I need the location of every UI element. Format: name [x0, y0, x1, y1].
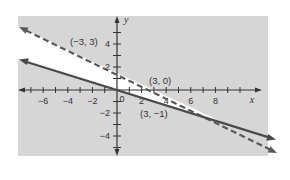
y-tick-label: 4 [105, 39, 110, 49]
x-axis-label: x [249, 94, 255, 105]
dashed-line-right-arrow-icon [268, 146, 278, 153]
inequality-graph: −6 −4 −2 0 2 4 6 8 x 4 2 −2 −4 y [0, 0, 290, 180]
point-label-3-0: (3, 0) [149, 75, 171, 86]
x-tick-label: 0 [119, 94, 124, 104]
point-label-neg3-3: (−3, 3) [70, 36, 98, 47]
y-tick-label: −2 [100, 108, 110, 118]
point-label-3-neg1: (3, −1) [140, 108, 168, 119]
x-tick-label: −6 [38, 96, 48, 106]
x-tick-label: −2 [87, 96, 97, 106]
y-tick-label: −4 [100, 131, 110, 141]
x-tick-label: −4 [63, 96, 73, 106]
x-tick-label: 8 [213, 96, 218, 106]
y-axis-label: y [123, 14, 129, 25]
x-tick-label: 6 [188, 96, 193, 106]
